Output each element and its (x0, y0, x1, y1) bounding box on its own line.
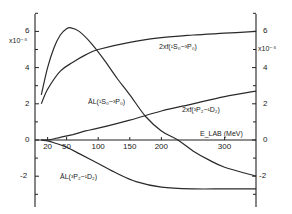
y-ticks-left (35, 13, 39, 194)
label-al-3p2-1d2: ĀL(³P₂−¹D₂) (60, 173, 97, 180)
y-tick-label-right: 6 (263, 27, 267, 35)
series-line-1 (41, 28, 256, 177)
y-tick-label-left: 2 (25, 100, 29, 108)
y-scale-label-left: x10⁻⁸ (9, 37, 27, 44)
y-tick-label-right: -2 (259, 172, 266, 180)
label-2xf-1s0-3p0: 2xf(¹S₀−³P₀) (159, 43, 197, 50)
x-tick-label: 20 (43, 143, 52, 151)
y-tick-label-right: 2 (263, 100, 267, 108)
x-tick-label: 300 (218, 143, 231, 151)
x-tick-label: 50 (62, 143, 71, 151)
y-tick-label-left: 4 (25, 64, 29, 72)
label-2xf-3p2-1d2: 2xf(³P₂−¹D₂) (182, 106, 220, 113)
y-tick-label-right: 0 (263, 136, 267, 144)
y-tick-label-left: -2 (20, 172, 27, 180)
series-line-0 (41, 31, 256, 103)
y-tick-label-left: 0 (25, 136, 29, 144)
y-tick-label-right: 4 (263, 64, 267, 72)
x-tick-label: 150 (123, 143, 136, 151)
x-tick-label: 200 (155, 143, 168, 151)
y-ticks-right (252, 13, 256, 194)
x-axis-label: E_LAB (MeV) (200, 130, 243, 137)
chart-canvas (0, 0, 292, 214)
label-al-1s0-3p0: ĀL(¹S₀−³P₀) (88, 98, 125, 105)
x-tick-label: 100 (91, 143, 104, 151)
y-tick-label-left: 6 (25, 27, 29, 35)
series-lines (41, 28, 256, 189)
y-scale-label-right: x10⁻⁸ (258, 45, 276, 52)
